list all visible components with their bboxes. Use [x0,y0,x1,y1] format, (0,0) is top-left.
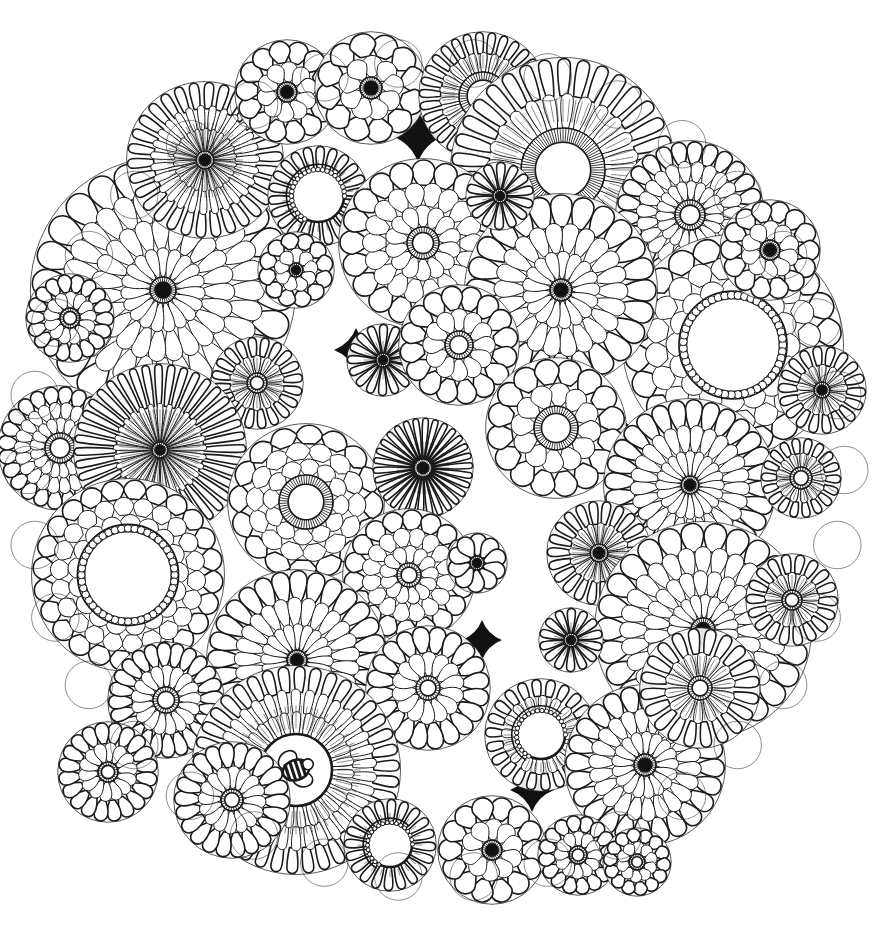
flower-f28 [539,608,603,672]
flower-f43 [174,742,291,859]
flower-f35 [640,628,761,749]
flower-f44 [466,162,534,230]
flower-f18 [761,438,841,518]
flower-f04 [315,32,428,145]
flower-f45 [603,828,671,896]
flower-f23 [373,418,474,519]
flower-f25 [446,533,507,593]
flower-f11 [258,232,335,309]
flower-f21 [32,479,225,672]
flower-f39 [746,554,838,646]
floral-mandala-artwork: Floral Mandala Coloring Page [0,0,887,943]
flower-f42 [26,274,114,362]
flower-f46 [58,722,159,823]
coloring-page-artboard: Floral Mandala Coloring Page [0,0,887,943]
flower-f41 [720,200,821,301]
flower-f37 [438,796,547,905]
flower-f40 [778,346,866,434]
